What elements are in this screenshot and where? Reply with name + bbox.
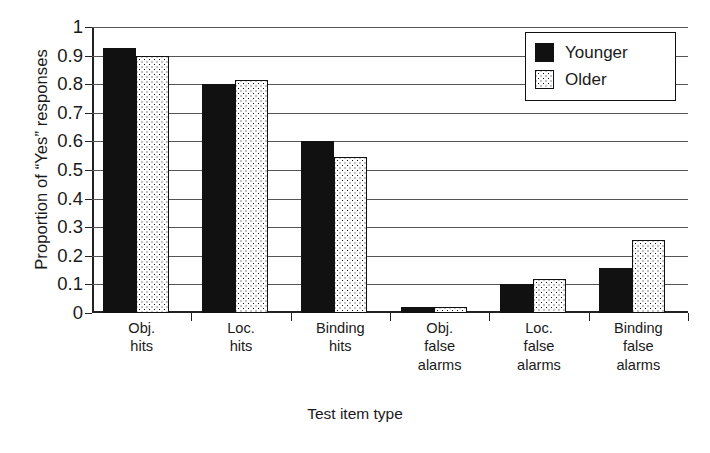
bar-older-1 (235, 80, 268, 313)
y-axis-title: Proportion of “Yes” responses (32, 15, 51, 305)
gridline (92, 170, 688, 171)
x-axis-title: Test item type (0, 405, 710, 423)
gridline (92, 141, 688, 142)
x-axis-group-label: Loc. hits (191, 319, 290, 356)
x-axis-group-label: Binding hits (291, 319, 390, 356)
legend-item-older: Older (535, 66, 666, 93)
y-axis-tick-label: 0.6 (57, 132, 83, 151)
x-axis-group-label: Obj. hits (92, 319, 191, 356)
bar-younger-0 (103, 48, 136, 313)
legend-swatch-younger (535, 43, 554, 62)
legend-item-younger: Younger (535, 39, 666, 66)
bar-older-3 (434, 307, 467, 313)
x-axis-tick-mark (688, 313, 689, 321)
gridline (92, 256, 688, 257)
gridline (92, 227, 688, 228)
y-axis-tick-mark (85, 113, 92, 114)
y-axis-tick-label: 0.8 (57, 75, 83, 94)
legend-label-older: Older (565, 71, 607, 88)
y-axis-tick-label: 0.9 (57, 46, 83, 65)
bar-younger-3 (401, 307, 434, 313)
y-axis-tick-mark (85, 170, 92, 171)
y-axis-tick-mark (85, 27, 92, 28)
bar-older-2 (334, 157, 367, 313)
y-axis-tick-mark (85, 284, 92, 285)
gridline (92, 199, 688, 200)
y-axis-tick-label: 0.5 (57, 161, 83, 180)
y-axis-tick-mark (85, 141, 92, 142)
x-axis-group-label: Binding false alarms (589, 319, 688, 374)
bar-younger-4 (500, 284, 533, 313)
y-axis-tick-label: 0.2 (57, 247, 83, 266)
chart-legend: Younger Older (525, 32, 676, 101)
bar-younger-5 (599, 268, 632, 313)
bar-younger-2 (301, 141, 334, 313)
y-axis-tick-label: 1 (73, 18, 83, 37)
legend-swatch-older (535, 70, 554, 89)
bar-older-5 (632, 240, 665, 313)
x-axis-group-label: Loc. false alarms (489, 319, 588, 374)
y-axis-tick-label: 0.4 (57, 189, 83, 208)
bar-younger-1 (202, 84, 235, 313)
bar-chart-figure: Proportion of “Yes” responses 00.10.20.3… (0, 0, 710, 453)
bar-older-0 (136, 56, 169, 313)
y-axis-tick-mark (85, 84, 92, 85)
y-axis-tick-mark (85, 199, 92, 200)
y-axis-tick-mark (85, 227, 92, 228)
y-axis-tick-label: 0.1 (57, 275, 83, 294)
x-axis-group-label: Obj. false alarms (390, 319, 489, 374)
y-axis-tick-label: 0 (73, 304, 83, 323)
gridline (92, 27, 688, 28)
y-axis-tick-mark (85, 256, 92, 257)
gridline (92, 113, 688, 114)
bar-older-4 (533, 279, 566, 313)
legend-label-younger: Younger (565, 44, 628, 61)
y-axis-tick-label: 0.3 (57, 218, 83, 237)
y-axis-tick-label: 0.7 (57, 104, 83, 123)
y-axis-tick-mark (85, 56, 92, 57)
y-axis-tick-mark (85, 313, 92, 314)
